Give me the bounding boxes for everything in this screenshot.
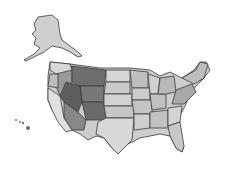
contiguous-us (48, 62, 210, 154)
us-map (0, 0, 227, 175)
hawaii (15, 119, 30, 130)
alaska (24, 15, 82, 61)
